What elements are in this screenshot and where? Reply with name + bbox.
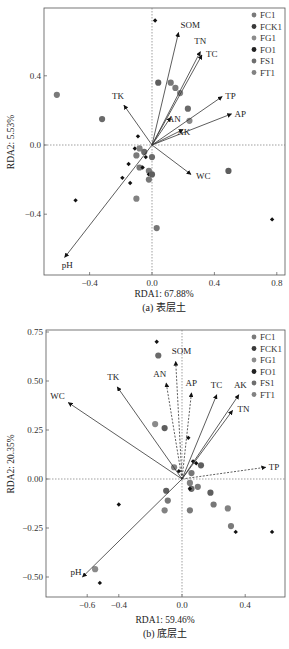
vector-ap — [182, 393, 191, 479]
sample-point — [228, 523, 234, 529]
vector-label-tc: TC — [206, 49, 218, 59]
sample-point — [162, 507, 168, 513]
sample-point-fo1 — [73, 198, 77, 202]
vector-ap — [152, 114, 232, 145]
x-tick-label: 0.0 — [176, 600, 188, 610]
sample-point-fo1 — [270, 530, 274, 534]
sample-point — [133, 152, 139, 158]
vector-label-an: AN — [168, 114, 181, 124]
sample-point — [168, 80, 174, 86]
vector-label-ph: pH — [62, 260, 74, 270]
vector-label-tn: TN — [194, 36, 206, 46]
y-axis-label: RDA2: 20.35% — [6, 434, 16, 493]
vector-ph — [82, 479, 182, 577]
sample-point — [185, 106, 191, 112]
vector-tk — [117, 387, 182, 479]
y-tick-label: 0.00 — [27, 474, 43, 484]
sample-point — [211, 501, 217, 507]
x-tick-label: 0.8 — [271, 278, 283, 288]
vector-label-tk: TK — [107, 372, 119, 382]
vector-label-tp: TP — [225, 91, 236, 101]
env-vectors: WCTKSOMANAPTCAKTNTPpH — [50, 346, 279, 577]
vector-wc — [152, 145, 191, 174]
x-tick-label: 0.0 — [146, 278, 158, 288]
sample-point — [172, 85, 178, 91]
vector-label-wc: WC — [196, 171, 211, 181]
legend: FC1FCK1FG1FO1FS1FT1 — [252, 332, 282, 400]
sample-point-fo1 — [120, 176, 124, 180]
sample-point — [207, 490, 213, 496]
panel-b-subsoil: −0.6−0.40.00.4−0.50−0.250.000.250.500.75… — [6, 327, 285, 640]
x-axis-label: RDA1: 67.88% — [134, 289, 193, 299]
sample-point-fo1 — [234, 530, 238, 534]
legend-label: FT1 — [260, 68, 275, 78]
sample-point — [162, 425, 168, 431]
sample-point — [149, 171, 155, 177]
legend-label: FO1 — [260, 367, 276, 377]
sample-point — [155, 352, 161, 358]
sample-point-fo1 — [153, 18, 157, 22]
vector-tn — [182, 410, 233, 479]
y-axis-label: RDA2: 5.53% — [6, 115, 16, 169]
legend-marker — [252, 358, 257, 363]
plot-frame — [44, 8, 285, 275]
vector-tp — [152, 97, 222, 145]
legend-marker — [252, 392, 257, 397]
sample-point — [133, 196, 139, 202]
legend-label: FS1 — [260, 378, 275, 388]
sample-point — [146, 177, 152, 183]
x-tick-label: 0.4 — [240, 600, 252, 610]
sample-point — [149, 154, 155, 160]
vector-label-ak: AK — [177, 127, 190, 137]
sample-point — [195, 484, 201, 490]
sample-point-fo1 — [136, 134, 140, 138]
legend-marker — [252, 59, 257, 64]
sample-point — [188, 470, 194, 476]
y-tick-label: 0.4 — [30, 71, 42, 81]
vector-label-tc: TC — [211, 380, 223, 390]
sample-point — [99, 116, 105, 122]
vector-label-tn: TN — [238, 404, 250, 414]
vector-label-ph: pH — [70, 567, 82, 577]
sample-points — [54, 18, 275, 231]
legend-marker — [252, 24, 257, 29]
sample-point — [155, 80, 161, 86]
legend-label: FS1 — [260, 56, 275, 66]
panel-a-surface-soil: −0.40.00.40.8−0.40.00.4 SOMTNTCTPAPANAKT… — [6, 8, 285, 314]
vector-ak — [182, 395, 239, 479]
vector-label-an: AN — [153, 369, 166, 379]
legend: FC1FCK1FG1FO1FS1FT1 — [252, 10, 282, 78]
legend-label: FC1 — [260, 10, 276, 20]
sample-point-fo1 — [128, 181, 132, 185]
x-tick-label: −0.4 — [111, 600, 128, 610]
legend-marker — [252, 335, 257, 340]
vector-label-som: SOM — [172, 346, 192, 356]
vector-label-ap: AP — [185, 378, 197, 388]
legend-label: FC1 — [260, 332, 276, 342]
vector-tk — [124, 105, 152, 145]
sample-point-fo1 — [126, 162, 130, 166]
legend-marker — [252, 47, 257, 52]
vector-label-som: SOM — [181, 20, 201, 30]
legend-label: FCK1 — [260, 344, 282, 354]
axis-ticks: −0.40.00.40.8−0.40.00.4 — [25, 71, 283, 288]
vector-label-ak: AK — [234, 380, 247, 390]
sample-point-fo1 — [133, 146, 137, 150]
legend-label: FT1 — [260, 390, 275, 400]
legend-marker — [252, 70, 257, 75]
y-tick-label: −0.25 — [22, 523, 43, 533]
axis-ticks: −0.6−0.40.00.4−0.50−0.250.000.250.500.75 — [22, 327, 251, 610]
rda-figure: −0.40.00.40.8−0.40.00.4 SOMTNTCTPAPANAKT… — [0, 0, 289, 649]
y-tick-label: 0.0 — [30, 140, 42, 150]
sample-point — [187, 480, 193, 486]
legend-marker — [252, 381, 257, 386]
y-tick-label: 0.25 — [27, 425, 43, 435]
x-tick-label: −0.4 — [81, 278, 98, 288]
vector-label-ap: AP — [235, 109, 247, 119]
x-axis-label: RDA1: 59.46% — [135, 615, 194, 625]
vector-wc — [68, 403, 182, 479]
sample-points — [92, 340, 274, 585]
legend-marker — [252, 13, 257, 18]
caption: (b) 底层土 — [143, 627, 187, 640]
zero-lines — [44, 8, 285, 275]
